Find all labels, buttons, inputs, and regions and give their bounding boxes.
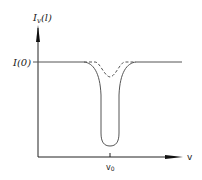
y-axis-arrow-icon — [36, 25, 40, 42]
y-axis-label: Iv(l) — [32, 12, 52, 25]
solid-deep-dip — [84, 62, 136, 146]
absorption-diagram: Iv(l) I(0) v v0 — [0, 0, 202, 180]
dashed-shallow-dip — [84, 62, 136, 77]
x-axis-arrow-icon — [165, 155, 183, 159]
baseline-label: I(0) — [12, 57, 31, 68]
x-axis-label: v — [187, 152, 193, 162]
v0-label: v0 — [106, 163, 115, 172]
